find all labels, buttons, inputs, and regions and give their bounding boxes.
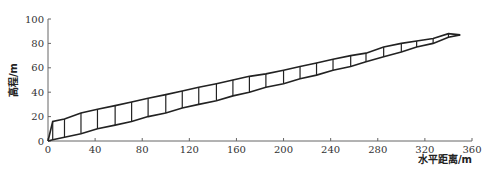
y-tick-label: 20 xyxy=(31,111,44,122)
x-tick-label: 160 xyxy=(227,144,246,155)
axes: 04080120160200240280320360020406080100 xyxy=(25,14,482,156)
x-tick-label: 120 xyxy=(180,144,199,155)
y-tick-label: 40 xyxy=(31,87,44,98)
x-tick-label: 240 xyxy=(321,144,340,155)
plot-area xyxy=(48,34,460,141)
y-tick-label: 60 xyxy=(31,62,44,73)
y-axis-label: 高程/m xyxy=(7,63,19,97)
x-tick-label: 200 xyxy=(274,144,293,155)
x-tick-label: 0 xyxy=(45,144,51,155)
x-tick-label: 40 xyxy=(89,144,102,155)
y-tick-label: 100 xyxy=(25,14,44,25)
x-tick-label: 80 xyxy=(136,144,149,155)
upper-profile-line xyxy=(48,34,460,141)
y-tick-label: 0 xyxy=(38,136,44,147)
elevation-profile-chart: 04080120160200240280320360020406080100 高… xyxy=(0,0,485,174)
lower-profile-line xyxy=(48,35,460,141)
x-axis-label: 水平距离/m xyxy=(417,153,472,165)
x-tick-label: 280 xyxy=(368,144,387,155)
y-tick-label: 80 xyxy=(31,38,44,49)
